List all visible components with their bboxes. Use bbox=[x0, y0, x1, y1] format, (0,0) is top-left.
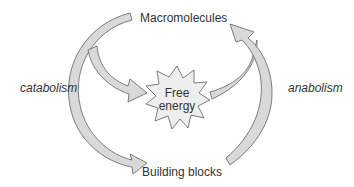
node-free-energy-line1: Free bbox=[157, 86, 197, 100]
process-catabolism: catabolism bbox=[20, 81, 77, 95]
catabolism-arrow-to-free-energy bbox=[88, 46, 147, 102]
anabolism-arrow-to-macromolecules bbox=[226, 24, 272, 165]
node-macromolecules: Macromolecules bbox=[140, 11, 224, 25]
node-building-blocks: Building blocks bbox=[140, 165, 224, 179]
node-free-energy-line2: energy bbox=[152, 99, 202, 113]
process-anabolism: anabolism bbox=[288, 81, 343, 95]
